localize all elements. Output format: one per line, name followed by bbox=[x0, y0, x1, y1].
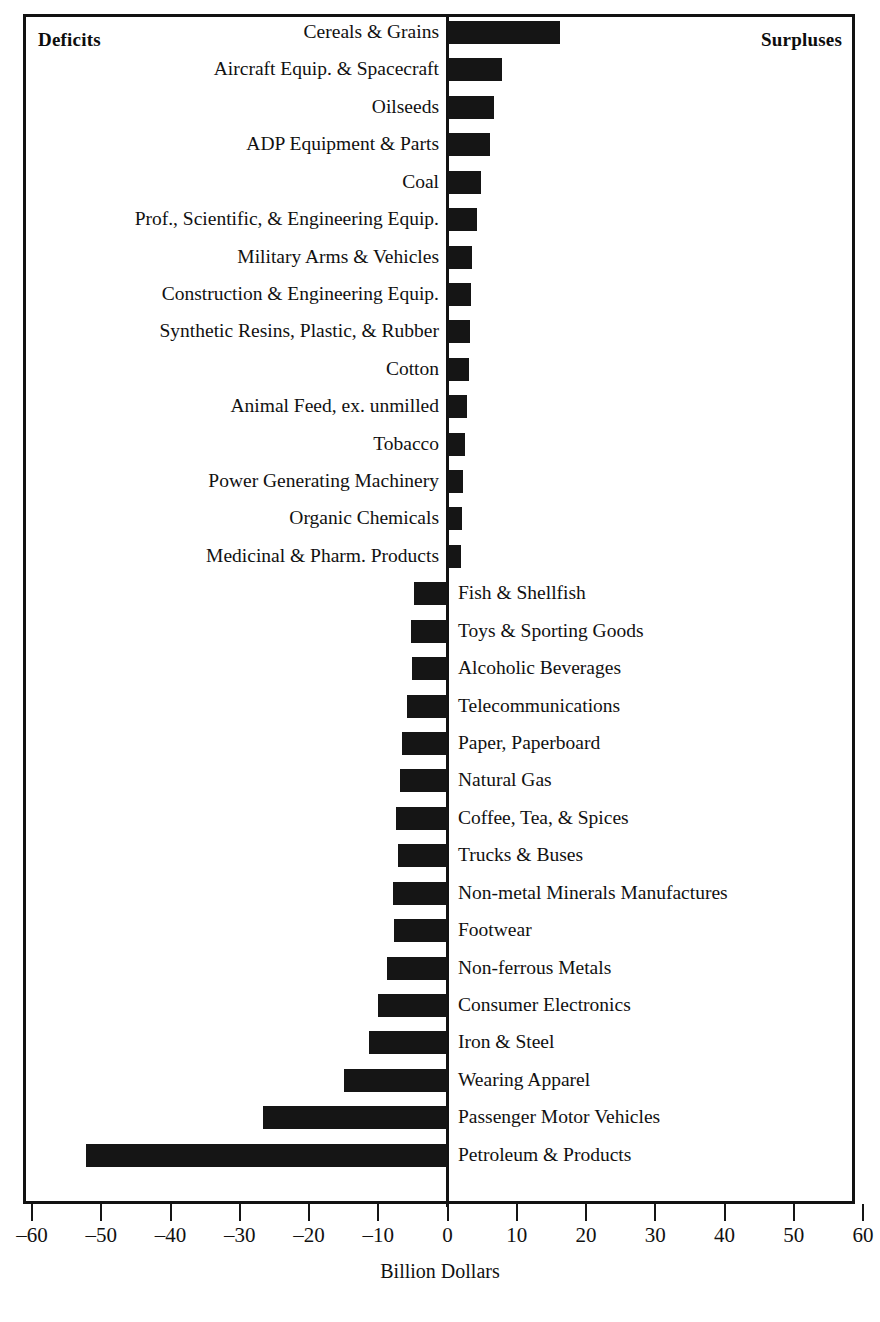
bar-row-label: Aircraft Equip. & Spacecraft bbox=[214, 54, 439, 84]
bar-row-label: Fish & Shellfish bbox=[458, 578, 586, 608]
bar-row: Coffee, Tea, & Spices bbox=[0, 800, 880, 837]
axis-tick-label: 60 bbox=[828, 1221, 880, 1249]
bar-row-label: Coffee, Tea, & Spices bbox=[458, 803, 629, 833]
bar-row-label: Wearing Apparel bbox=[458, 1065, 590, 1095]
bar-surplus bbox=[448, 58, 502, 81]
bar-row: Construction & Engineering Equip. bbox=[0, 276, 880, 313]
bar-row: Prof., Scientific, & Engineering Equip. bbox=[0, 201, 880, 238]
axis-tick bbox=[308, 1204, 310, 1221]
bar-row-label: ADP Equipment & Parts bbox=[246, 129, 439, 159]
bar-surplus bbox=[448, 133, 491, 156]
bar-surplus bbox=[448, 208, 477, 231]
bar-surplus bbox=[448, 320, 470, 343]
bar-deficit bbox=[378, 994, 448, 1017]
bar-row-label: Telecommunications bbox=[458, 691, 620, 721]
bar-deficit bbox=[369, 1031, 447, 1054]
bar-row-label: Prof., Scientific, & Engineering Equip. bbox=[135, 204, 439, 234]
bar-row-label: Non-metal Minerals Manufactures bbox=[458, 878, 728, 908]
bar-row-label: Toys & Sporting Goods bbox=[458, 616, 644, 646]
bar-deficit bbox=[396, 807, 448, 830]
bar-row: Wearing Apparel bbox=[0, 1062, 880, 1099]
bar-row-label: Oilseeds bbox=[372, 92, 439, 122]
bar-deficit bbox=[414, 582, 448, 605]
axis-tick-label: 30 bbox=[620, 1221, 690, 1249]
bar-row: Organic Chemicals bbox=[0, 500, 880, 537]
bar-row-label: Synthetic Resins, Plastic, & Rubber bbox=[160, 316, 439, 346]
bar-row: ADP Equipment & Parts bbox=[0, 126, 880, 163]
axis-tick-label: 50 bbox=[759, 1221, 829, 1249]
bar-deficit bbox=[387, 957, 448, 980]
axis-tick-label: 20 bbox=[551, 1221, 621, 1249]
bar-row-label: Natural Gas bbox=[458, 765, 552, 795]
axis-tick bbox=[447, 1204, 449, 1221]
bar-row-label: Power Generating Machinery bbox=[208, 466, 439, 496]
bar-deficit bbox=[402, 732, 448, 755]
bar-deficit bbox=[412, 657, 447, 680]
bar-row-label: Paper, Paperboard bbox=[458, 728, 600, 758]
bar-row: Power Generating Machinery bbox=[0, 463, 880, 500]
axis-tick-label: ‒50 bbox=[66, 1221, 136, 1249]
bar-row: Telecommunications bbox=[0, 688, 880, 725]
bar-row-label: Cotton bbox=[386, 354, 439, 384]
bar-row: Natural Gas bbox=[0, 762, 880, 799]
axis-tick-label: 10 bbox=[482, 1221, 552, 1249]
bar-surplus bbox=[448, 395, 467, 418]
bar-row: Toys & Sporting Goods bbox=[0, 613, 880, 650]
axis-tick-label: 0 bbox=[413, 1221, 483, 1249]
axis-tick-label: ‒60 bbox=[0, 1221, 67, 1249]
bar-surplus bbox=[448, 96, 494, 119]
bar-deficit bbox=[394, 919, 447, 942]
bar-row-label: Non-ferrous Metals bbox=[458, 953, 611, 983]
bar-row-label: Footwear bbox=[458, 915, 532, 945]
axis-tick-label: 40 bbox=[690, 1221, 760, 1249]
bar-deficit bbox=[393, 882, 448, 905]
axis-tick bbox=[793, 1204, 795, 1221]
bar-row: Petroleum & Products bbox=[0, 1137, 880, 1174]
bar-row: Alcoholic Beverages bbox=[0, 650, 880, 687]
bar-rows: Cereals & GrainsAircraft Equip. & Spacec… bbox=[0, 0, 880, 1204]
bar-deficit bbox=[344, 1069, 448, 1092]
bar-row-label: Consumer Electronics bbox=[458, 990, 631, 1020]
bar-row-label: Military Arms & Vehicles bbox=[237, 242, 439, 272]
bar-surplus bbox=[448, 507, 463, 530]
bar-row: Non-metal Minerals Manufactures bbox=[0, 875, 880, 912]
bar-row-label: Construction & Engineering Equip. bbox=[162, 279, 439, 309]
bar-surplus bbox=[448, 545, 461, 568]
axis-tick bbox=[516, 1204, 518, 1221]
bar-deficit bbox=[400, 769, 447, 792]
bar-surplus bbox=[448, 171, 481, 194]
axis-tick bbox=[862, 1204, 864, 1221]
bar-deficit bbox=[263, 1106, 448, 1129]
axis-tick bbox=[31, 1204, 33, 1221]
bar-row-label: Tobacco bbox=[373, 429, 439, 459]
axis-title: Billion Dollars bbox=[0, 1260, 880, 1283]
bar-row: Iron & Steel bbox=[0, 1024, 880, 1061]
chart-figure: Deficits Surpluses Cereals & GrainsAircr… bbox=[0, 0, 880, 1322]
bar-deficit bbox=[86, 1144, 447, 1167]
bar-row-label: Alcoholic Beverages bbox=[458, 653, 621, 683]
bar-row: Coal bbox=[0, 164, 880, 201]
bar-surplus bbox=[448, 21, 561, 44]
bar-deficit bbox=[407, 695, 448, 718]
axis-tick bbox=[100, 1204, 102, 1221]
bar-row-label: Coal bbox=[402, 167, 439, 197]
bar-row: Synthetic Resins, Plastic, & Rubber bbox=[0, 313, 880, 350]
bar-row: Military Arms & Vehicles bbox=[0, 239, 880, 276]
axis-tick bbox=[654, 1204, 656, 1221]
bar-row: Footwear bbox=[0, 912, 880, 949]
bar-row-label: Animal Feed, ex. unmilled bbox=[230, 391, 439, 421]
bar-row: Passenger Motor Vehicles bbox=[0, 1099, 880, 1136]
axis-tick-label: ‒10 bbox=[343, 1221, 413, 1249]
bar-row: Animal Feed, ex. unmilled bbox=[0, 388, 880, 425]
bar-row-label: Iron & Steel bbox=[458, 1027, 554, 1057]
bar-surplus bbox=[448, 358, 469, 381]
x-axis: Billion Dollars ‒60‒50‒40‒30‒20‒10010203… bbox=[0, 1204, 880, 1322]
bar-row-label: Organic Chemicals bbox=[289, 503, 439, 533]
bar-row-label: Petroleum & Products bbox=[458, 1140, 631, 1170]
bar-row-label: Medicinal & Pharm. Products bbox=[206, 541, 439, 571]
bar-row: Medicinal & Pharm. Products bbox=[0, 538, 880, 575]
bar-surplus bbox=[448, 283, 472, 306]
axis-tick bbox=[170, 1204, 172, 1221]
axis-tick bbox=[585, 1204, 587, 1221]
bar-row: Oilseeds bbox=[0, 89, 880, 126]
